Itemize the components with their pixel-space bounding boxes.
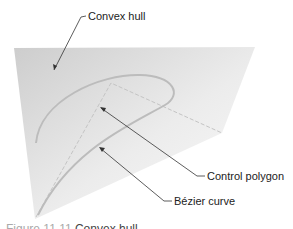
convex-hull-diagram — [0, 0, 293, 229]
bezier-curve-label: Bézier curve — [174, 195, 235, 207]
figure-number: Figure 11.11 — [6, 222, 72, 229]
figure-title: Convex hull — [75, 222, 138, 229]
convex-hull-label: Convex hull — [88, 10, 145, 22]
control-polygon-label: Control polygon — [207, 170, 284, 182]
figure-caption: Figure 11.11 Convex hull — [6, 222, 138, 229]
